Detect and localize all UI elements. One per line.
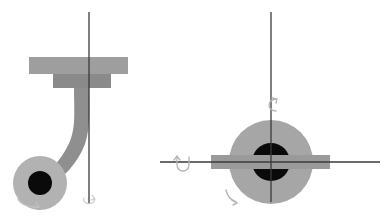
mechanism-diagram (0, 0, 387, 217)
lower-mounting-plate (53, 74, 111, 88)
wheel-hub (28, 171, 52, 195)
upper-mounting-plate (29, 57, 128, 74)
diagram-canvas (0, 0, 387, 217)
